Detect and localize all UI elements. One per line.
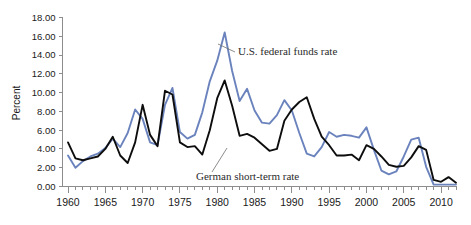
y-tick-label: 14.00 [32,49,56,60]
y-axis-tick-labels: 0.002.004.006.008.0010.0012.0014.0016.00… [32,12,56,192]
y-tick-label: 12.00 [32,68,56,79]
y-tick-label: 6.00 [37,125,56,136]
x-tick-label: 2010 [429,196,453,208]
series-annotations: U.S. federal funds rateGerman short-term… [196,44,337,182]
x-tick-label: 1990 [280,196,304,208]
chart-canvas: 0.002.004.006.008.0010.0012.0014.0016.00… [0,0,471,225]
x-tick-label: 2005 [392,196,416,208]
annotation-label: German short-term rate [196,170,299,182]
x-tick-label: 1980 [206,196,230,208]
y-tick-label: 8.00 [37,106,56,117]
y-tick-label: 2.00 [37,162,56,173]
y-tick-label: 0.00 [37,181,56,192]
y-axis-ticks [59,18,63,187]
x-tick-label: 1975 [168,196,192,208]
x-tick-label: 1960 [56,196,80,208]
x-tick-label: 2000 [355,196,379,208]
annotation-label: U.S. federal funds rate [238,45,337,57]
x-tick-label: 1965 [94,196,118,208]
y-tick-label: 18.00 [32,12,56,23]
x-tick-label: 1970 [131,196,155,208]
y-tick-label: 4.00 [37,143,56,154]
y-axis-title: Percent [11,86,22,121]
y-tick-label: 16.00 [32,31,56,42]
x-axis-tick-labels: 1960196519701975198019851990199520002005… [56,196,453,208]
annotation-leader-line [212,148,227,172]
chart-figure: 0.002.004.006.008.0010.0012.0014.0016.00… [0,0,471,225]
x-tick-label: 1985 [243,196,267,208]
y-tick-label: 10.00 [32,87,56,98]
series-line-german-short-term-rate [68,80,456,182]
x-axis-minor-ticks [75,187,456,191]
x-axis-major-ticks [68,187,441,193]
x-tick-label: 1995 [317,196,341,208]
